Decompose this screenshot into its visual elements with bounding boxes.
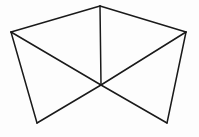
edge-right-center (101, 32, 186, 85)
figure-canvas (0, 0, 199, 137)
edge-center-bottomright (101, 85, 167, 123)
edge-left-top (11, 6, 100, 32)
edge-top-right (100, 6, 186, 32)
edge-top-center (100, 6, 101, 85)
edge-group (11, 6, 186, 123)
edge-bottomright-right (167, 32, 186, 123)
wireframe-figure (0, 0, 199, 137)
edge-bottomleft-center (37, 85, 101, 123)
